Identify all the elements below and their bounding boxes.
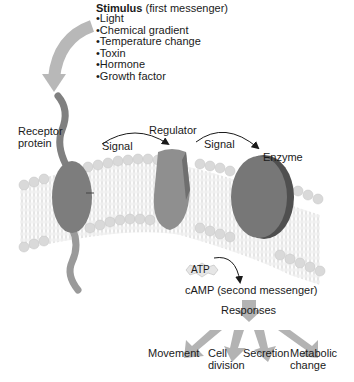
response-movement: Movement [148, 347, 199, 359]
enzyme-protein [231, 155, 294, 239]
stimulus-item: Growth factor [96, 71, 201, 83]
response-secretion: Secretion [243, 347, 289, 359]
responses-label: Responses [221, 304, 276, 316]
regulator-label: Regulator [149, 124, 197, 136]
stimulus-arrow-icon [42, 26, 92, 92]
stimulus-item: Light [96, 13, 201, 25]
signal-label-1: Signal [102, 140, 133, 152]
signal-label-2: Signal [204, 138, 235, 150]
response-cell-division-line2: division [208, 359, 245, 371]
response-metabolic-line1: Metabolic [290, 347, 337, 359]
receptor-label-line2: protein [18, 137, 52, 149]
atp-label: ATP [191, 264, 210, 276]
receptor-label-line1: Receptor [18, 125, 63, 137]
response-metabolic-line2: change [290, 359, 326, 371]
response-cell-division-line1: Cell [208, 347, 227, 359]
enzyme-label: Enzyme [263, 151, 303, 163]
stimulus-list: Light Chemical gradient Temperature chan… [96, 13, 201, 83]
camp-label: cAMP (second messenger) [185, 284, 317, 296]
